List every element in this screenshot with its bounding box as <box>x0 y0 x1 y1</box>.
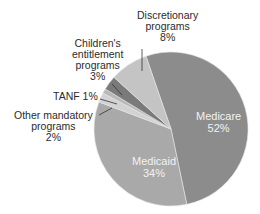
label-medicaid: Medicaid 34% <box>132 155 176 179</box>
label-text: Medicaid <box>132 155 176 167</box>
label-childrens: Children's entitlement programs 3% <box>72 38 123 82</box>
label-medicare: Medicare 52% <box>196 110 241 134</box>
label-other-mandatory: Other mandatory programs 2% <box>14 110 93 143</box>
label-tanf: TANF 1% <box>53 91 98 102</box>
label-value: 3% <box>72 71 123 82</box>
label-text: Medicare <box>196 110 241 122</box>
label-value: 2% <box>14 132 93 143</box>
label-discretionary: Discretionary programs 8% <box>137 10 198 43</box>
label-value: 34% <box>132 167 176 179</box>
label-text: TANF 1% <box>53 91 98 102</box>
pie-chart <box>0 0 260 214</box>
label-value: 52% <box>196 122 241 134</box>
label-value: 8% <box>137 32 198 43</box>
